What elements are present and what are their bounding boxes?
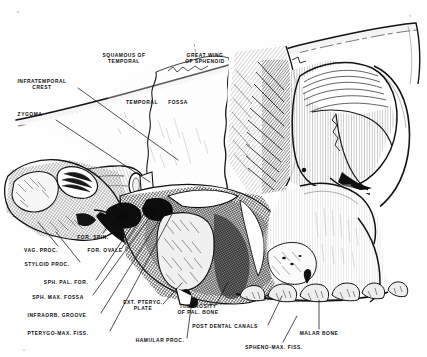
label-temporal: TEMPORAL <box>126 100 158 106</box>
label-great-wing-of-sphenoid: GREAT WING OF SPHENOID <box>185 53 225 66</box>
label-spheno-max-fiss: SPHENO-MAX. FISS. <box>245 345 302 351</box>
label-squamous-of-temporal: SQUAMOUS OF TEMPORAL <box>102 53 145 66</box>
label-styloid-proc: STYLOID PROC. <box>24 262 69 268</box>
label-malar-bone: MALAR BONE <box>300 331 339 337</box>
label-infratemporal-crest: INFRATEMPORAL CREST <box>17 79 66 92</box>
label-pterygo-max-fiss: PTERYGO-MAX. FISS. <box>27 331 88 337</box>
label-tuberosity-of-pal-bone: TUBEROSITY OF PAL. BONE <box>177 304 218 317</box>
label-vag-proc: VAG. PROC. <box>24 248 58 254</box>
label-hamular-proc: HAMULAR PROC. <box>136 338 185 344</box>
label-post-dental-canals: POST DENTAL CANALS <box>192 324 258 330</box>
label-fossa: FOSSA <box>168 100 188 106</box>
label-for-spin: FOR. SPIN. <box>77 235 108 241</box>
label-for-ovale: FOR. OVALE <box>87 248 122 254</box>
label-sph-max-fossa: SPH. MAX. FOSSA <box>32 295 83 301</box>
label-sph-pal-for: SPH. PAL. FOR. <box>44 280 88 286</box>
label-zygoma: ZYGOMA <box>18 112 43 118</box>
label-ext-pteryg-plate: EXT. PTERYG. PLATE <box>123 300 163 313</box>
anatomical-plate: SQUAMOUS OF TEMPORALGREAT WING OF SPHENO… <box>0 0 427 357</box>
label-infraorb-groove: INFRAORB. GROOVE <box>28 313 87 319</box>
